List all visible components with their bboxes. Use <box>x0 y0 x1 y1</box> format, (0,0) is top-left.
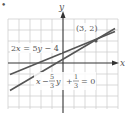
y-axis-arrow-icon <box>61 11 66 18</box>
svg-text:3: 3 <box>74 82 78 90</box>
axes <box>8 16 115 113</box>
intersection-label: (3, 2) <box>76 24 98 33</box>
svg-text:1: 1 <box>74 73 78 81</box>
svg-text:−: − <box>42 77 49 86</box>
svg-text:3: 3 <box>50 82 54 90</box>
x-axis-label: x <box>120 58 125 68</box>
svg-text:x: x <box>36 77 41 86</box>
system-of-equations-graph: • x y <box>0 0 125 121</box>
equation-label-1: 2x = 5y − 4 <box>11 44 59 53</box>
graph-canvas: • x y <box>0 0 125 121</box>
svg-text:+: + <box>66 77 73 86</box>
figure-bullet: • <box>1 0 6 10</box>
svg-text:5: 5 <box>50 73 54 81</box>
y-axis-label: y <box>58 2 65 12</box>
svg-text:y: y <box>55 77 61 86</box>
intersection-point <box>94 39 97 42</box>
svg-text:= 0: = 0 <box>81 77 95 86</box>
